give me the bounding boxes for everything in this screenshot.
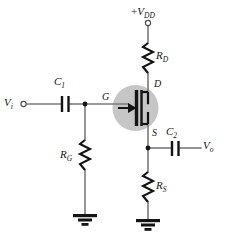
output-capacitor-label: C2 xyxy=(166,126,177,137)
supply-terminal-circle xyxy=(145,20,150,25)
gate-resistor-subscript: G xyxy=(67,154,73,163)
input-terminal-circle xyxy=(21,101,26,106)
gate-node-dot xyxy=(83,102,88,107)
source-ground-bar-1 xyxy=(136,219,160,222)
circuit-figure: +VDD RD D G S Vi C1 RG C2 Vo RS xyxy=(0,0,226,241)
gate-resistor-symbol xyxy=(80,140,90,170)
output-capacitor-subscript: 2 xyxy=(173,131,177,140)
input-label: Vi xyxy=(4,97,13,108)
output-label-subscript: o xyxy=(210,145,214,154)
source-resistor-subscript: S xyxy=(163,185,167,194)
source-ground-bar-3 xyxy=(145,228,152,231)
output-label: Vo xyxy=(203,140,214,151)
drain-resistor-symbol xyxy=(143,43,153,73)
drain-resistor-label: RD xyxy=(156,50,168,61)
output-capacitor-symbol xyxy=(172,141,179,156)
gate-resistor-label: RG xyxy=(60,149,72,160)
gate-ground-symbol xyxy=(73,214,97,226)
input-capacitor-subscript: 1 xyxy=(61,81,65,90)
input-label-subscript: i xyxy=(11,102,13,111)
gate-ground-bar-3 xyxy=(82,223,89,226)
supply-label: +VDD xyxy=(131,6,155,17)
supply-label-subscript: DD xyxy=(144,11,155,20)
source-resistor-label: RS xyxy=(156,180,167,191)
drain-resistor-subscript: D xyxy=(163,55,169,64)
circuit-schematic xyxy=(0,0,226,241)
gate-ground-bar-2 xyxy=(78,219,92,222)
gate-ground-bar-1 xyxy=(73,214,97,217)
source-ground-symbol xyxy=(136,219,160,231)
drain-terminal-label: D xyxy=(154,79,161,89)
source-terminal-label: S xyxy=(152,128,157,138)
source-ground-bar-2 xyxy=(141,224,155,227)
source-node-dot xyxy=(146,146,151,151)
source-resistor-symbol xyxy=(143,172,153,202)
input-capacitor-symbol xyxy=(62,96,69,112)
gate-terminal-label: G xyxy=(102,92,109,102)
input-capacitor-label: C1 xyxy=(54,76,65,87)
